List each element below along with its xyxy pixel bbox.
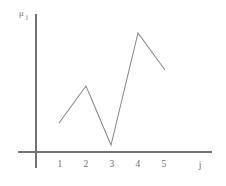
x-tick-label-3: 3 <box>110 159 115 169</box>
line-chart-canvas: μ j 1 2 3 4 5 j <box>0 0 226 186</box>
y-axis-label: μ j <box>19 8 28 21</box>
x-tick-label-2: 2 <box>84 159 89 169</box>
x-axis-label: j <box>198 160 202 170</box>
x-tick-label-5: 5 <box>162 159 167 169</box>
x-tick-label-1: 1 <box>58 159 63 169</box>
data-series-line <box>59 33 165 145</box>
x-tick-label-4: 4 <box>136 159 141 169</box>
y-axis-label-subscript: j <box>25 13 28 21</box>
y-axis-label-mu: μ <box>19 8 24 18</box>
chart-figure: μ j 1 2 3 4 5 j <box>0 0 226 186</box>
